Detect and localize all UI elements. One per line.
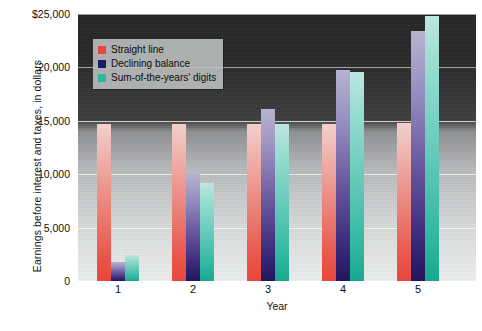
y-tick-label: 10,000 [0,168,70,180]
y-tick-label: 0 [0,275,70,287]
y-axis-tick-labels: $25,00020,00015,00010,0005,0000 [0,14,78,281]
bar [322,124,336,281]
legend-item-label: Straight line [111,45,164,55]
bar [350,72,364,281]
x-tick-label: 3 [238,283,298,295]
legend-item: Declining balance [98,57,216,70]
bar [336,70,350,281]
bar [200,183,214,281]
y-tick-label: 15,000 [0,115,70,127]
legend-item-label: Declining balance [111,59,190,69]
x-axis-title: Year [78,300,476,312]
legend-swatch-icon [98,46,106,54]
bar-chart: Earnings before interest and taxes, in d… [0,0,482,331]
legend-swatch-icon [98,74,106,82]
x-tick-label: 5 [388,283,448,295]
x-tick-label: 4 [313,283,373,295]
legend-item: Sum-of-the-years' digits [98,71,216,84]
y-tick-label: $25,000 [0,8,70,20]
bar [172,124,186,281]
legend-item: Straight line [98,43,216,56]
y-tick-label: 5,000 [0,222,70,234]
bar [125,255,139,281]
bar [261,109,275,281]
bar [97,124,111,281]
bar [247,124,261,281]
bar [411,31,425,281]
legend-swatch-icon [98,60,106,68]
x-tick-label: 2 [163,283,223,295]
bar [275,124,289,281]
x-axis-tick-labels: 12345 [78,283,476,301]
bar [397,123,411,281]
bar [111,262,125,281]
bar [425,16,439,281]
legend-item-label: Sum-of-the-years' digits [111,73,216,83]
chart-legend: Straight lineDeclining balanceSum-of-the… [93,39,223,89]
x-tick-label: 1 [88,283,148,295]
gridline [78,14,476,15]
y-tick-label: 20,000 [0,61,70,73]
bar [186,173,200,281]
